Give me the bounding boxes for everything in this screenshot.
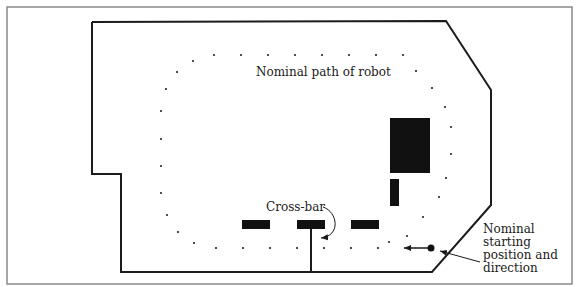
robot-path-diagram: Nominal path of robot Cross-bar Nominal …	[0, 0, 578, 287]
path-dot	[350, 247, 352, 249]
path-dot	[160, 138, 162, 140]
arena-outline	[92, 21, 491, 272]
path-dot	[422, 216, 424, 218]
path-dot	[177, 231, 179, 233]
path-dot	[321, 54, 323, 56]
path-dot	[406, 235, 408, 237]
path-label: Nominal path of robot	[256, 65, 391, 79]
path-dot	[296, 247, 298, 249]
start-label-line-2: starting	[483, 235, 531, 249]
path-dot	[267, 54, 269, 56]
path-dot	[323, 247, 325, 249]
path-dot	[240, 54, 242, 56]
path-dot	[415, 70, 417, 72]
path-dot	[165, 88, 167, 90]
small-block	[390, 179, 399, 206]
start-label: Nominal starting position and direction	[483, 222, 558, 275]
path-dot	[160, 192, 162, 194]
path-dot	[160, 165, 162, 167]
start-label-line-4: direction	[483, 261, 538, 275]
path-dot	[269, 247, 271, 249]
path-dot	[192, 60, 194, 62]
large-block	[390, 118, 430, 173]
path-dot	[176, 71, 178, 73]
path-dot	[166, 214, 168, 216]
path-dot	[402, 54, 404, 56]
start-label-line-1: Nominal	[483, 222, 535, 236]
crossbar-label: Cross-bar	[266, 200, 325, 214]
bar-center	[297, 220, 325, 229]
start-marker	[404, 245, 435, 252]
path-dot	[444, 106, 446, 108]
path-dot	[375, 54, 377, 56]
path-dot	[377, 247, 379, 249]
start-label-line-3: position and	[483, 248, 558, 262]
path-dot	[431, 87, 433, 89]
start-position-dot	[428, 245, 435, 252]
path-dot	[215, 247, 217, 249]
path-dot	[348, 54, 350, 56]
path-dot	[294, 54, 296, 56]
path-dot	[450, 153, 452, 155]
path-dot	[445, 177, 447, 179]
path-dot	[193, 242, 195, 244]
path-dot	[450, 126, 452, 128]
path-dot	[213, 54, 215, 56]
path-dot	[438, 196, 440, 198]
path-dot	[160, 110, 162, 112]
path-dot	[242, 247, 244, 249]
path-dot	[388, 241, 390, 243]
bar-left	[242, 220, 270, 229]
bar-right	[351, 220, 379, 229]
